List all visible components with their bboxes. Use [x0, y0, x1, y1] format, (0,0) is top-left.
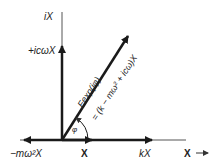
phasor-diagram: iX +icωX Fexp(iφ) = (k − mω² + icω)X φ −… — [0, 0, 218, 165]
spring-force-label: kX — [139, 149, 151, 159]
real-axis-label: X — [184, 149, 191, 159]
phasor-diagram-svg — [0, 0, 218, 165]
damping-force-label: +icωX — [28, 46, 56, 56]
angle-label: φ — [72, 126, 77, 134]
displacement-label: X — [81, 149, 88, 159]
inertia-force-label: −mω²X — [10, 149, 42, 159]
angle-arc — [76, 118, 88, 140]
imaginary-axis-label: iX — [44, 12, 53, 22]
